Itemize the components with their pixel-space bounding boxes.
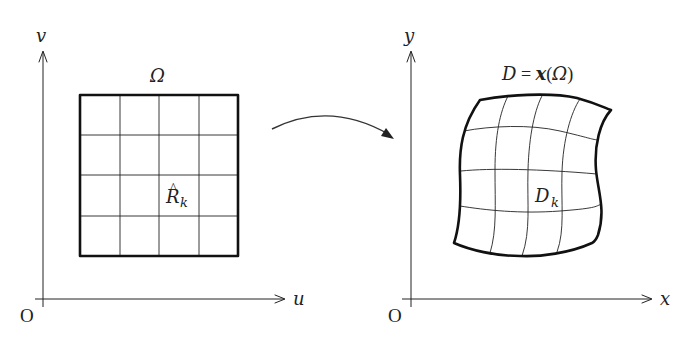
cell-label-subscript: k	[551, 195, 559, 210]
left-axes	[35, 51, 285, 307]
physical-grid	[454, 94, 611, 256]
grid-curve-vertical	[557, 99, 580, 252]
omega-label: Ω	[149, 65, 165, 86]
right-origin-label: O	[388, 305, 402, 326]
mapping-arrowhead-icon	[381, 128, 394, 139]
v-axis-label: v	[36, 25, 46, 46]
cell-label-d: D	[534, 185, 550, 206]
left-panel: O u v Ω R ^ k	[20, 25, 305, 326]
parameter-grid	[80, 95, 238, 256]
grid-curve-vertical	[522, 94, 543, 256]
grid-curve-vertical	[490, 96, 508, 253]
cell-label-subscript: k	[180, 195, 188, 210]
grid-curve-horizontal	[460, 204, 602, 212]
mapping-diagram: O u v Ω R ^ k	[0, 0, 697, 345]
u-axis-label: u	[293, 288, 305, 309]
grid-curve-horizontal	[461, 169, 597, 174]
right-axes	[402, 51, 652, 307]
cell-label-r-hat-k: R ^ k	[165, 181, 188, 210]
domain-d-boundary	[454, 95, 611, 256]
domain-d-argument: Ω	[551, 63, 567, 84]
mapping-arrow-curve	[272, 116, 390, 135]
cell-label-hat: ^	[170, 181, 177, 196]
domain-d-lhs: D	[501, 63, 517, 84]
cell-label-d-k: D k	[534, 185, 559, 210]
x-axis-label: x	[660, 288, 670, 309]
domain-d-equals: =	[516, 64, 535, 84]
right-panel: O x y D = x(Ω) D k	[388, 25, 670, 326]
y-axis-label: y	[403, 25, 415, 46]
mapping-arrow	[272, 116, 394, 139]
domain-d-map-function: x	[535, 63, 547, 84]
domain-d-close-paren: )	[567, 64, 573, 85]
left-origin-label: O	[20, 305, 34, 326]
domain-d-label: D = x(Ω)	[501, 63, 573, 85]
